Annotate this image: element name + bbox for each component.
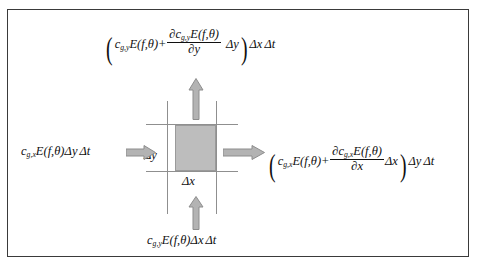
delta-x-cell-label: Δx [182, 175, 195, 188]
num-c-subscript-right: g,x [344, 150, 353, 159]
delta-t-left: Δt [79, 144, 90, 158]
delta-t-bottom: Δt [205, 233, 216, 247]
figure-frame: (cg,yE(f,θ)+∂cg,yE(f,θ)∂yΔy)ΔxΔt cg,xE(f… [7, 9, 469, 257]
etop-symbol: E [129, 37, 137, 51]
paren-open-top: ( [106, 33, 113, 65]
paren-open-right: ( [269, 150, 276, 182]
grid-line-vertical-right [216, 101, 217, 214]
paren-close-top: ) [241, 33, 248, 65]
den-var-right: x [357, 159, 363, 173]
num-e-top: E [190, 27, 198, 41]
arrow-flux-out-top [188, 78, 204, 120]
flux-in-left-equation: cg,xE(f,θ)ΔyΔt [21, 145, 90, 159]
num-e-right: E [353, 144, 361, 158]
partial-derivative-right: ∂cg,xE(f,θ)∂x [330, 145, 384, 172]
control-volume-cell [175, 125, 216, 171]
plus-right: + [321, 154, 329, 168]
delta-x-top: Δx [249, 37, 262, 51]
arrow-flux-in-bottom [188, 196, 204, 230]
eright-args: (f,θ) [300, 154, 321, 168]
delta-t-right: Δt [423, 154, 434, 168]
delta-x-right: Δx [385, 154, 398, 168]
flux-out-right-equation: (cg,xE(f,θ)+∂cg,xE(f,θ)∂xΔx)ΔyΔt [267, 145, 434, 182]
paren-close-right: ) [400, 150, 407, 182]
arrow-flux-out-right [223, 145, 265, 160]
delta-y-top: Δy [226, 37, 239, 51]
arrow-flux-in-left [126, 145, 156, 160]
cleft-subscript: g,x [27, 150, 36, 159]
eleft-args: (f,θ) [43, 144, 64, 158]
flux-out-top-equation: (cg,yE(f,θ)+∂cg,yE(f,θ)∂yΔy)ΔxΔt [104, 28, 275, 65]
delta-y-right: Δy [408, 154, 421, 168]
eright-symbol: E [292, 154, 300, 168]
delta-t-top: Δt [264, 37, 275, 51]
etop-args: (f,θ) [137, 37, 158, 51]
num-e-args-top: (f,θ) [198, 27, 219, 41]
delta-y-left: Δy [65, 144, 78, 158]
num-c-subscript-top: g,y [181, 33, 190, 42]
grid-line-horizontal-bottom [146, 171, 238, 172]
delta-x-cell-text: Δx [182, 174, 195, 188]
num-e-args-right: (f,θ) [361, 144, 382, 158]
grid-line-vertical-left [167, 101, 168, 214]
flux-in-bottom-equation: cg,yE(f,θ)ΔxΔt [147, 234, 216, 248]
ebottom-args: (f,θ) [169, 233, 190, 247]
delta-x-bottom: Δx [191, 233, 204, 247]
plus-top: + [158, 37, 166, 51]
den-var-top: y [194, 42, 200, 56]
figure-canvas: (cg,yE(f,θ)+∂cg,yE(f,θ)∂yΔy)ΔxΔt cg,xE(f… [0, 0, 481, 273]
partial-derivative-top: ∂cg,yE(f,θ)∂y [167, 28, 221, 55]
cbottom-subscript: g,y [153, 239, 162, 248]
